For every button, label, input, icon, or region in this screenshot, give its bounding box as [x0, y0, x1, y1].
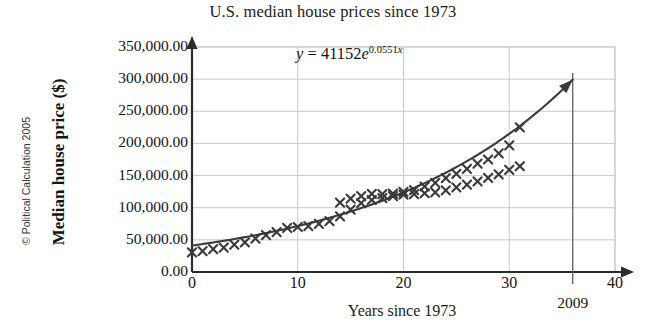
x-tick-label: 0 — [172, 274, 212, 292]
x-tick-label: 20 — [384, 274, 424, 292]
year-marker-label: 2009 — [543, 294, 603, 312]
equation-equals: = — [307, 44, 316, 63]
equation-exponent-variable: x — [398, 44, 403, 55]
x-tick-label: 10 — [278, 274, 318, 292]
trendline-equation: y = 41152e0.0551x — [296, 44, 402, 64]
equation-exponent-coefficient: 0.0551 — [369, 44, 398, 55]
equation-coefficient: 41152 — [321, 44, 362, 63]
x-tick-label: 30 — [489, 274, 529, 292]
equation-y: y — [296, 44, 303, 63]
equation-base-e: e — [362, 44, 369, 63]
x-tick-label: 40 — [595, 274, 635, 292]
chart-figure: U.S. median house prices since 1973 © Po… — [0, 0, 666, 332]
